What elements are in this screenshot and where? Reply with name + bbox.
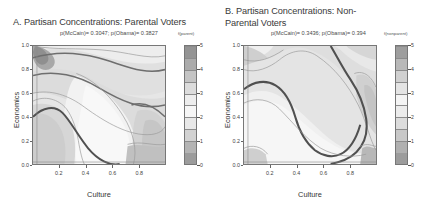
panel-b-ytick-1: 0.2 [227, 138, 240, 144]
panel-a-cb-mark-2 [197, 117, 200, 118]
colorbar-band [185, 117, 196, 129]
panel-b-cb-label-1: 1 [411, 138, 414, 144]
panel-b-cb-mark-2 [408, 117, 411, 118]
panel-b-xtick-1: 0.4 [293, 170, 301, 176]
panel-a-xtick-mark-2 [112, 165, 113, 168]
panel-b-cb-label-5: 5 [411, 42, 414, 48]
panel-b-xtick-mark-1 [297, 165, 298, 168]
panel-a-ytick-mark-2 [30, 117, 33, 118]
panel-a-ytick-4: 0.8 [16, 66, 29, 72]
panel-b-cb-label-3: 3 [411, 90, 414, 96]
colorbar-band [185, 82, 196, 94]
figure-container: A. Partisan Concentrations: Parental Vot… [0, 0, 433, 220]
panel-a-subtitle: p(McCain)= 0.3047; p(Obama)= 0.3827 [60, 30, 158, 36]
panel-b-xtick-mark-2 [323, 165, 324, 168]
colorbar-band [396, 58, 407, 70]
colorbar-band [185, 129, 196, 141]
panel-a-xtick-2: 0.6 [109, 170, 117, 176]
panel-b-xtick-mark-0 [270, 165, 271, 168]
panel-a-xtick-mark-1 [86, 165, 87, 168]
panel-b-cb-mark-4 [408, 69, 411, 70]
colorbar-band [185, 141, 196, 153]
panel-a-plot-area [32, 45, 166, 165]
colorbar-band [396, 153, 407, 164]
panel-a-xtick-mark-3 [139, 165, 140, 168]
panel-a: A. Partisan Concentrations: Parental Vot… [0, 0, 216, 220]
colorbar-band [185, 58, 196, 70]
panel-a-cb-label-4: 4 [200, 66, 203, 72]
colorbar-band [185, 94, 196, 106]
panel-a-legend-title: f(parent) [178, 31, 194, 36]
panel-b-cb-mark-5 [408, 45, 411, 46]
panel-a-cb-label-3: 3 [200, 90, 203, 96]
panel-a-ytick-mark-5 [30, 45, 33, 46]
panel-b-ytick-mark-3 [241, 93, 244, 94]
panel-a-cb-mark-5 [197, 45, 200, 46]
panel-a-xtick-3: 0.8 [135, 170, 143, 176]
panel-a-contour-map [33, 46, 165, 164]
colorbar-band [185, 153, 196, 164]
panel-b-ytick-mark-2 [241, 117, 244, 118]
panel-b-cb-mark-0 [408, 165, 411, 166]
colorbar-band [396, 141, 407, 153]
panel-a-cb-mark-4 [197, 69, 200, 70]
panel-a-cb-label-1: 1 [200, 138, 203, 144]
panel-b-ytick-mark-5 [241, 45, 244, 46]
colorbar-band [396, 94, 407, 106]
panel-b-title: B. Partisan Concentrations: Non-Parental… [225, 6, 375, 29]
panel-a-cb-mark-3 [197, 93, 200, 94]
panel-b-legend-title: f(nonparent) [384, 31, 407, 36]
panel-a-ytick-1: 0.2 [16, 138, 29, 144]
panel-b-ytick-0: 0.0 [227, 162, 240, 168]
panel-b-contour-map [244, 46, 376, 164]
panel-a-ytick-mark-1 [30, 141, 33, 142]
colorbar-band [396, 129, 407, 141]
panel-a-colorbar [184, 45, 197, 165]
panel-b-ytick-5: 1.0 [227, 42, 240, 48]
panel-b-xtick-2: 0.6 [320, 170, 328, 176]
panel-a-cb-label-2: 2 [200, 114, 203, 120]
panel-b-xtick-mark-3 [350, 165, 351, 168]
panel-b-ytick-mark-1 [241, 141, 244, 142]
panel-b-cb-label-0: 0 [411, 162, 414, 168]
panel-a-ytick-mark-0 [30, 165, 33, 166]
colorbar-band [185, 70, 196, 82]
colorbar-band [396, 82, 407, 94]
panel-b-xtick-3: 0.8 [346, 170, 354, 176]
colorbar-band [185, 46, 196, 58]
panel-b-colorbar [395, 45, 408, 165]
panel-b-cb-label-4: 4 [411, 66, 414, 72]
panel-a-ytick-mark-4 [30, 69, 33, 70]
panel-a-xtick-0: 0.2 [55, 170, 63, 176]
panel-a-xtick-1: 0.4 [82, 170, 90, 176]
colorbar-band [185, 105, 196, 117]
panel-a-ytick-0: 0.0 [16, 162, 29, 168]
panel-a-title: A. Partisan Concentrations: Parental Vot… [13, 17, 208, 29]
panel-b-plot-area [243, 45, 377, 165]
panel-a-ytick-mark-3 [30, 93, 33, 94]
panel-b-ytick-mark-4 [241, 69, 244, 70]
panel-a-xaxis-label: Culture [32, 190, 166, 199]
panel-a-ytick-5: 1.0 [16, 42, 29, 48]
panel-b-ytick-mark-0 [241, 165, 244, 166]
colorbar-band [396, 105, 407, 117]
panel-b-xtick-0: 0.2 [266, 170, 274, 176]
panel-a-cb-mark-0 [197, 165, 200, 166]
colorbar-band [396, 117, 407, 129]
panel-b-cb-mark-3 [408, 93, 411, 94]
panel-b: B. Partisan Concentrations: Non-Parental… [217, 0, 433, 220]
panel-b-subtitle: p(McCain)= 0.3436; p(Obama)= 0.394 [271, 30, 366, 36]
panel-a-yaxis-label: Economics [12, 92, 21, 128]
panel-a-cb-label-0: 0 [200, 162, 203, 168]
panel-b-ytick-4: 0.8 [227, 66, 240, 72]
panel-b-xaxis-label: Culture [243, 190, 377, 199]
panel-b-cb-label-2: 2 [411, 114, 414, 120]
panel-a-cb-mark-1 [197, 141, 200, 142]
panel-b-cb-mark-1 [408, 141, 411, 142]
panel-a-cb-label-5: 5 [200, 42, 203, 48]
colorbar-band [396, 46, 407, 58]
panel-b-yaxis-label: Economics [223, 92, 232, 128]
panel-a-xtick-mark-0 [59, 165, 60, 168]
colorbar-band [396, 70, 407, 82]
